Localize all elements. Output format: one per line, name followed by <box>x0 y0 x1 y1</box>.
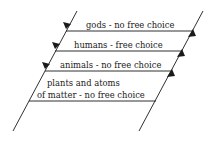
arrow-up-icon <box>177 49 185 57</box>
label-gods: gods - no free choice <box>86 20 174 30</box>
label-humans: humans - free choice <box>74 40 163 50</box>
hierarchy-diagram: gods - no free choice humans - free choi… <box>0 0 213 141</box>
arrow-down-icon <box>63 22 71 29</box>
arrow-up-icon <box>188 29 196 37</box>
label-plants-line1: plants and atoms <box>47 78 120 88</box>
label-plants-line2: of matter - no free choice <box>37 90 145 100</box>
label-animals: animals - no free choice <box>60 60 161 70</box>
